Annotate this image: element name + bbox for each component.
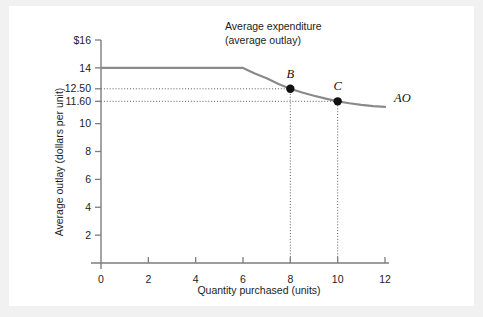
- guide-lines-layer: [101, 89, 338, 263]
- point-label-c: C: [333, 79, 342, 93]
- data-point-marker-b: [286, 85, 294, 93]
- figure-card: Average expenditure (average outlay) 246…: [9, 6, 474, 306]
- y-tick-label: 11.60: [66, 95, 92, 107]
- ao-curve-path: [101, 68, 385, 107]
- y-tick-label: 14: [79, 62, 91, 74]
- data-curve-layer: [101, 68, 385, 107]
- y-tick-label: 2: [85, 229, 91, 241]
- y-tick-label: $16: [73, 34, 91, 46]
- x-tick-label: 0: [98, 273, 104, 285]
- y-tick-labels-layer: 24681011.6012.5014$16: [65, 34, 91, 241]
- y-tick-label: 10: [79, 117, 91, 129]
- chart-title-group: Average expenditure (average outlay): [225, 20, 322, 46]
- y-tick-label: 4: [85, 201, 91, 213]
- y-tick-label: 8: [85, 145, 91, 157]
- y-tick-label: 6: [85, 173, 91, 185]
- chart-title-line1: Average expenditure: [225, 20, 322, 32]
- x-tick-label: 10: [332, 273, 344, 285]
- data-point-marker-c: [333, 97, 341, 105]
- x-tick-label: 12: [379, 273, 391, 285]
- average-outlay-chart: Average expenditure (average outlay) 246…: [9, 6, 474, 306]
- curve-label-ao: AO: [393, 91, 411, 105]
- y-tick-label: 12.50: [65, 82, 91, 94]
- tick-marks-layer: [95, 40, 385, 263]
- chart-title-line2: (average outlay): [225, 34, 301, 46]
- x-tick-label: 2: [145, 273, 151, 285]
- y-axis-title: Average outlay (dollars per unit): [53, 88, 65, 237]
- figure-root: Average expenditure (average outlay) 246…: [0, 0, 483, 317]
- x-axis-title: Quantity purchased (units): [197, 284, 320, 296]
- point-label-b: B: [287, 67, 295, 81]
- axes-layer: [91, 40, 389, 269]
